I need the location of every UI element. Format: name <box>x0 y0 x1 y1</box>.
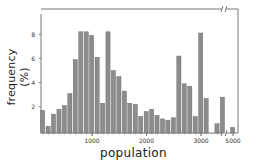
histogram-bar <box>46 126 50 133</box>
histogram-bar <box>139 117 143 134</box>
histogram-bar <box>204 98 208 133</box>
svg-text:1000: 1000 <box>84 137 99 144</box>
histogram-bar <box>122 91 126 133</box>
svg-text:2: 2 <box>31 103 35 110</box>
histogram-bar <box>106 32 110 133</box>
histogram-bar <box>144 112 148 133</box>
histogram-bar <box>95 57 99 133</box>
histogram-bar <box>193 117 197 134</box>
histogram-bar <box>90 35 94 133</box>
svg-text:2000: 2000 <box>139 137 154 144</box>
histogram-bar <box>128 103 132 133</box>
histogram-bar <box>111 71 115 134</box>
histogram-bar <box>171 118 175 133</box>
svg-text:6: 6 <box>31 55 35 62</box>
histogram-chart: 2468 1000200030005000 <box>0 0 256 164</box>
histogram-bar <box>155 115 159 133</box>
histogram-bar <box>182 84 186 133</box>
histogram-bar <box>84 32 88 133</box>
histogram-bar <box>220 97 224 133</box>
histogram-bar <box>101 103 105 133</box>
histogram-bar <box>41 110 45 133</box>
histogram-bar <box>166 120 170 133</box>
histogram-bar <box>177 56 181 133</box>
histogram-bar <box>231 127 235 133</box>
histogram-bar <box>68 94 72 134</box>
y-axis-ticks: 2468 <box>31 31 41 111</box>
histogram-bar <box>199 33 203 133</box>
histogram-bar <box>150 109 154 133</box>
histogram-bar <box>57 109 61 133</box>
svg-text:4: 4 <box>31 79 35 86</box>
histogram-bar <box>215 124 219 133</box>
histogram-bar <box>73 60 77 133</box>
svg-text:5000: 5000 <box>225 137 240 144</box>
svg-text:3000: 3000 <box>193 137 208 144</box>
bars <box>41 32 235 133</box>
histogram-bar <box>51 114 55 133</box>
x-axis-ticks: 1000200030005000 <box>43 133 241 144</box>
svg-text:8: 8 <box>31 31 35 38</box>
histogram-bar <box>160 119 164 133</box>
x-axis-label: population <box>100 146 167 160</box>
histogram-bar <box>62 106 66 133</box>
histogram-bar <box>79 32 83 133</box>
histogram-bar <box>117 77 121 133</box>
y-axis-label: frequency (%) <box>5 37 31 117</box>
histogram-bar <box>188 86 192 133</box>
histogram-bar <box>133 104 137 133</box>
